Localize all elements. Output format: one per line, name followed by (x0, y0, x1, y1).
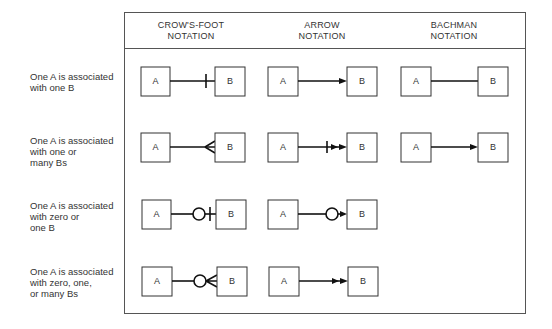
entity-a-label: A (280, 209, 286, 219)
entity-a-label: A (413, 142, 419, 152)
crows-foot-many-icon (206, 275, 217, 287)
entity-b-label: B (227, 76, 233, 86)
arrowhead-icon (339, 78, 347, 84)
entity-b-label: B (490, 76, 496, 86)
entity-a-label: A (413, 76, 419, 86)
entity-a-label: A (280, 142, 286, 152)
entity-a-label: A (152, 76, 158, 86)
zero-circle-icon (194, 275, 206, 287)
zero-circle-icon (193, 208, 205, 220)
crows-foot-one-to-many: A B (141, 133, 245, 162)
double-arrowhead-icon (332, 278, 339, 284)
double-arrowhead-icon (331, 144, 338, 150)
entity-a-label: A (152, 142, 158, 152)
entity-b-label: B (360, 276, 366, 286)
arrow-zero-or-one: A B (268, 200, 377, 229)
crows-foot-zero-or-one: A B (142, 200, 246, 229)
entity-b-label: B (359, 209, 365, 219)
zero-circle-icon (326, 208, 338, 220)
arrowhead-icon (340, 278, 348, 284)
notation-diagrams: A B A B A B A B A B A (0, 0, 552, 329)
entity-a-label: A (280, 76, 286, 86)
bachman-one-to-many: A B (401, 133, 508, 162)
entity-b-label: B (227, 142, 233, 152)
arrowhead-icon (470, 144, 478, 150)
arrow-one-to-many: A B (268, 133, 377, 162)
entity-a-label: A (281, 276, 287, 286)
bachman-one-to-one: A B (401, 67, 508, 96)
entity-b-label: B (359, 76, 365, 86)
crows-foot-one-to-one: A B (141, 67, 245, 96)
arrowhead-icon (340, 211, 347, 217)
entity-b-label: B (229, 276, 235, 286)
arrow-one-to-one: A B (268, 67, 377, 96)
entity-a-label: A (153, 209, 159, 219)
arrowhead-icon (339, 144, 347, 150)
entity-b-label: B (359, 142, 365, 152)
arrow-zero-one-or-many: A B (269, 267, 378, 296)
crows-foot-zero-one-or-many: A B (142, 267, 247, 296)
entity-b-label: B (228, 209, 234, 219)
entity-b-label: B (490, 142, 496, 152)
entity-a-label: A (154, 276, 160, 286)
